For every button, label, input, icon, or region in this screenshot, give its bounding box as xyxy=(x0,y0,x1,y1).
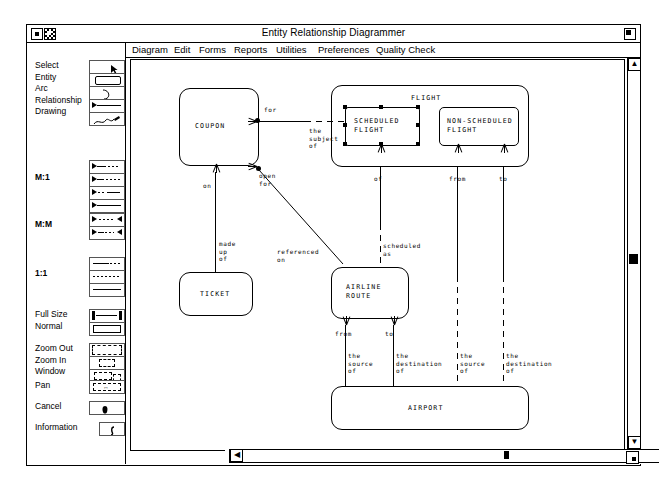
tool-label-pan[interactable]: Pan xyxy=(35,380,50,392)
tool-label-zoom-in[interactable]: Zoom In xyxy=(35,355,73,367)
crowsfoot-route-from xyxy=(339,316,353,325)
horizontal-scrollbar[interactable]: ◀ ▶ xyxy=(229,449,659,463)
normal-size-icon[interactable] xyxy=(90,323,124,335)
m1-dashed-icon[interactable] xyxy=(90,174,124,187)
entity-non-scheduled-flight[interactable]: NON-SCHEDULED FLIGHT xyxy=(439,107,519,146)
palette-cells-cancel xyxy=(89,401,125,415)
palette-cells-11 xyxy=(89,257,125,297)
entity-ticket[interactable]: TICKET xyxy=(179,272,253,316)
rel-label-from-nonsched: from xyxy=(449,175,466,183)
crowsfoot-nonsched-from xyxy=(451,144,465,153)
menu-item-forms[interactable]: Forms xyxy=(199,44,226,55)
menu-item-diagram[interactable]: Diagram xyxy=(132,44,168,55)
tool-label-cancel[interactable]: Cancel xyxy=(35,401,61,413)
cursor-arrow-icon[interactable] xyxy=(90,61,124,74)
palette-group-pan-labels: Pan xyxy=(35,380,50,392)
entity-coupon[interactable]: COUPON xyxy=(179,88,259,166)
entity-airport-label: AIRPORT xyxy=(408,404,444,413)
vertical-scrollbar[interactable]: ▲ ▼ xyxy=(627,58,640,449)
m1-optional-icon[interactable] xyxy=(90,161,124,174)
arc-icon[interactable] xyxy=(90,87,124,100)
menu-item-preferences[interactable]: Preferences xyxy=(318,44,369,55)
tool-label-m1[interactable]: M:1 xyxy=(35,160,50,184)
entity-ticket-label: TICKET xyxy=(200,290,230,299)
rel-line-coupon-scheduled-dashed xyxy=(305,121,345,122)
horizontal-scrollbar-area: ◀ ▶ xyxy=(225,450,659,464)
entity-airline-route-label: AIRLINE ROUTE xyxy=(346,283,382,301)
rel-line-nonsched-dest-dashed xyxy=(503,276,504,386)
menu-item-quality-check[interactable]: Quality Check xyxy=(376,44,435,55)
tool-label-relationship[interactable]: Relationship xyxy=(35,95,82,107)
menu-item-edit[interactable]: Edit xyxy=(174,44,190,55)
tool-label-full-size[interactable]: Full Size xyxy=(35,309,68,321)
menu-item-reports[interactable]: Reports xyxy=(234,44,267,55)
entity-airline-route[interactable]: AIRLINE ROUTE xyxy=(331,267,409,319)
drawing-pencil-icon[interactable] xyxy=(90,113,124,125)
zoom-in-icon[interactable] xyxy=(90,357,124,370)
selection-handle[interactable] xyxy=(343,123,347,127)
one-one-dashed-icon[interactable] xyxy=(90,258,124,271)
scroll-left-arrow[interactable]: ◀ xyxy=(230,449,243,462)
palette-cells-information xyxy=(99,422,125,436)
tool-label-window[interactable]: Window xyxy=(35,366,73,378)
rel-node-open-for xyxy=(256,166,261,171)
tool-label-drawing[interactable]: Drawing xyxy=(35,106,82,118)
m1-solid-icon[interactable] xyxy=(90,200,124,212)
selection-handle[interactable] xyxy=(416,123,420,127)
rel-label-the-source-of-1: the source of xyxy=(348,352,373,375)
pan-hand-icon[interactable]: ↔ xyxy=(90,381,124,393)
mm-mixed-icon[interactable] xyxy=(90,227,124,239)
rel-label-the-destination-of-2: the destination of xyxy=(506,352,552,375)
application-window: Entity Relationship Diagrammer Select En… xyxy=(0,0,659,487)
tool-label-mm[interactable]: M:M xyxy=(35,213,52,231)
cancel-icon[interactable] xyxy=(90,402,124,414)
entity-scheduled-flight[interactable]: SCHEDULED FLIGHT xyxy=(345,107,420,146)
horizontal-scroll-thumb[interactable] xyxy=(504,451,509,459)
tool-label-select[interactable]: Select xyxy=(35,60,82,72)
entity-scheduled-flight-label: SCHEDULED FLIGHT xyxy=(354,117,400,135)
palette-group-tools-labels: Select Entity Arc Relationship Drawing xyxy=(35,60,82,118)
selection-handle[interactable] xyxy=(343,105,347,109)
tool-label-normal[interactable]: Normal xyxy=(35,321,68,333)
palette-cells-m1 xyxy=(89,160,125,213)
rel-node-for xyxy=(255,118,260,123)
palette-cells-tools xyxy=(89,60,125,126)
menu-item-utilities[interactable]: Utilities xyxy=(276,44,307,55)
tool-label-zoom-out[interactable]: Zoom Out xyxy=(35,343,73,355)
tool-label-entity[interactable]: Entity xyxy=(35,72,82,84)
palette-cells-pan: ↔ xyxy=(89,380,125,394)
window-grow-box[interactable] xyxy=(626,451,639,464)
diagram-canvas[interactable]: COUPON FLIGHT SCHEDULED FLIGHT NON-SCHED… xyxy=(130,59,625,451)
crowsfoot-nonsched-to xyxy=(497,144,511,153)
scroll-down-arrow[interactable]: ▼ xyxy=(628,436,641,449)
one-one-solid-icon[interactable] xyxy=(90,284,124,296)
palette-cells-view-size xyxy=(89,309,125,336)
m1-mixed-icon[interactable] xyxy=(90,187,124,200)
one-one-mixed-icon[interactable] xyxy=(90,271,124,284)
tool-label-arc[interactable]: Arc xyxy=(35,83,82,95)
tool-palette-sidebar: Select Entity Arc Relationship Drawing xyxy=(27,43,126,464)
entity-box-icon[interactable] xyxy=(90,74,124,87)
resize-corner-icon[interactable] xyxy=(624,28,636,40)
full-size-icon[interactable] xyxy=(90,310,124,323)
rel-label-the-subject-of: the subject of xyxy=(309,127,339,150)
rel-label-open-for: open for xyxy=(259,172,276,187)
selection-handle[interactable] xyxy=(416,142,420,146)
selection-handle[interactable] xyxy=(416,105,420,109)
rel-line-coupon-ticket xyxy=(215,172,216,272)
rel-line-coupon-scheduled-solid xyxy=(257,121,305,122)
selection-handle[interactable] xyxy=(343,142,347,146)
vertical-scroll-thumb[interactable] xyxy=(629,254,638,264)
tool-label-11[interactable]: 1:1 xyxy=(35,257,47,280)
palette-group-info-labels: Information xyxy=(35,422,78,434)
palette-group-cancel-labels: Cancel xyxy=(35,401,61,413)
relationship-line-icon[interactable] xyxy=(90,100,124,113)
zoom-out-icon[interactable] xyxy=(90,344,124,357)
information-icon[interactable] xyxy=(100,423,124,435)
entity-airport[interactable]: AIRPORT xyxy=(331,386,529,430)
rel-label-on: on xyxy=(203,182,211,190)
tool-label-information[interactable]: Information xyxy=(35,422,78,434)
mm-dashed-icon[interactable] xyxy=(90,214,124,227)
scroll-up-arrow[interactable]: ▲ xyxy=(628,58,641,71)
selection-handle[interactable] xyxy=(379,105,383,109)
